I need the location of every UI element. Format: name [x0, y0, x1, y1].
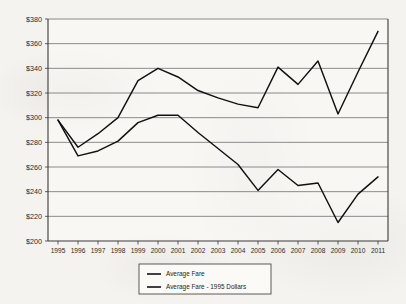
y-axis-labels: $380$360$340$320$300$280$260$240$220$200	[26, 15, 42, 246]
x-tick-label: 2007	[291, 247, 306, 254]
x-tick-label: 2003	[211, 247, 226, 254]
chart-svg: $380$360$340$320$300$280$260$240$220$200…	[0, 0, 406, 304]
x-tick-label: 1995	[51, 247, 66, 254]
x-tick-label: 2009	[331, 247, 346, 254]
x-tick-label: 2002	[191, 247, 206, 254]
y-tick-label: $200	[26, 237, 42, 246]
x-axis-labels: 1995199619971998199920002001200220032004…	[51, 247, 386, 254]
x-tick-label: 2010	[351, 247, 366, 254]
y-tick-label: $260	[26, 163, 42, 172]
plot-area-background	[48, 19, 388, 241]
y-tick-label: $300	[26, 113, 42, 122]
x-tick-label: 2000	[151, 247, 166, 254]
x-tick-label: 1999	[131, 247, 146, 254]
y-tick-label: $340	[26, 64, 42, 73]
x-tick-label: 2006	[271, 247, 286, 254]
legend-label-1: Average Fare	[166, 270, 205, 278]
x-tick-label: 2011	[371, 247, 386, 254]
legend-label-2: Average Fare - 1995 Dollars	[166, 283, 246, 291]
y-tick-label: $240	[26, 187, 42, 196]
y-tick-label: $380	[26, 15, 42, 24]
x-tick-label: 1997	[91, 247, 106, 254]
x-tick-label: 2005	[251, 247, 266, 254]
y-tick-label: $320	[26, 89, 42, 98]
chart-legend: Average FareAverage Fare - 1995 Dollars	[139, 264, 271, 294]
line-chart: $380$360$340$320$300$280$260$240$220$200…	[0, 0, 406, 304]
y-tick-label: $220	[26, 212, 42, 221]
x-tick-label: 1998	[111, 247, 126, 254]
x-tick-label: 2004	[231, 247, 246, 254]
y-tick-label: $280	[26, 138, 42, 147]
x-tick-label: 1996	[71, 247, 86, 254]
x-tick-label: 2001	[171, 247, 186, 254]
x-tick-label: 2008	[311, 247, 326, 254]
y-tick-label: $360	[26, 39, 42, 48]
